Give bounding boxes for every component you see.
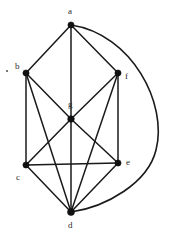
graph-vertex-g[interactable] — [68, 116, 75, 123]
graph-edge-c-e — [26, 163, 118, 165]
graph-edge-c-g — [26, 119, 71, 165]
edges-layer — [26, 25, 158, 212]
graph-vertex-c[interactable] — [23, 162, 29, 168]
stray-dot-mark — [6, 70, 8, 72]
vertex-label-b: b — [15, 62, 20, 71]
vertex-label-e: e — [126, 158, 130, 167]
vertex-label-f: f — [125, 72, 128, 81]
graph-canvas — [0, 0, 173, 240]
graph-edge-e-d — [71, 163, 118, 212]
graph-vertex-a[interactable] — [68, 22, 74, 28]
vertex-label-d: d — [68, 221, 73, 230]
vertices-layer — [23, 22, 121, 216]
graph-edge-a-d — [71, 25, 158, 212]
graph-figure: abfgced — [0, 0, 173, 240]
graph-vertex-d[interactable] — [68, 209, 75, 216]
graph-vertex-f[interactable] — [115, 70, 121, 76]
graph-edge-f-d — [71, 73, 118, 212]
graph-vertex-e[interactable] — [115, 160, 121, 166]
vertex-label-g: g — [68, 100, 73, 109]
graph-vertex-b[interactable] — [23, 70, 29, 76]
graph-edge-c-d — [26, 165, 71, 212]
vertex-label-c: c — [16, 173, 20, 182]
graph-edge-a-b — [26, 25, 71, 73]
vertex-label-a: a — [68, 7, 72, 16]
